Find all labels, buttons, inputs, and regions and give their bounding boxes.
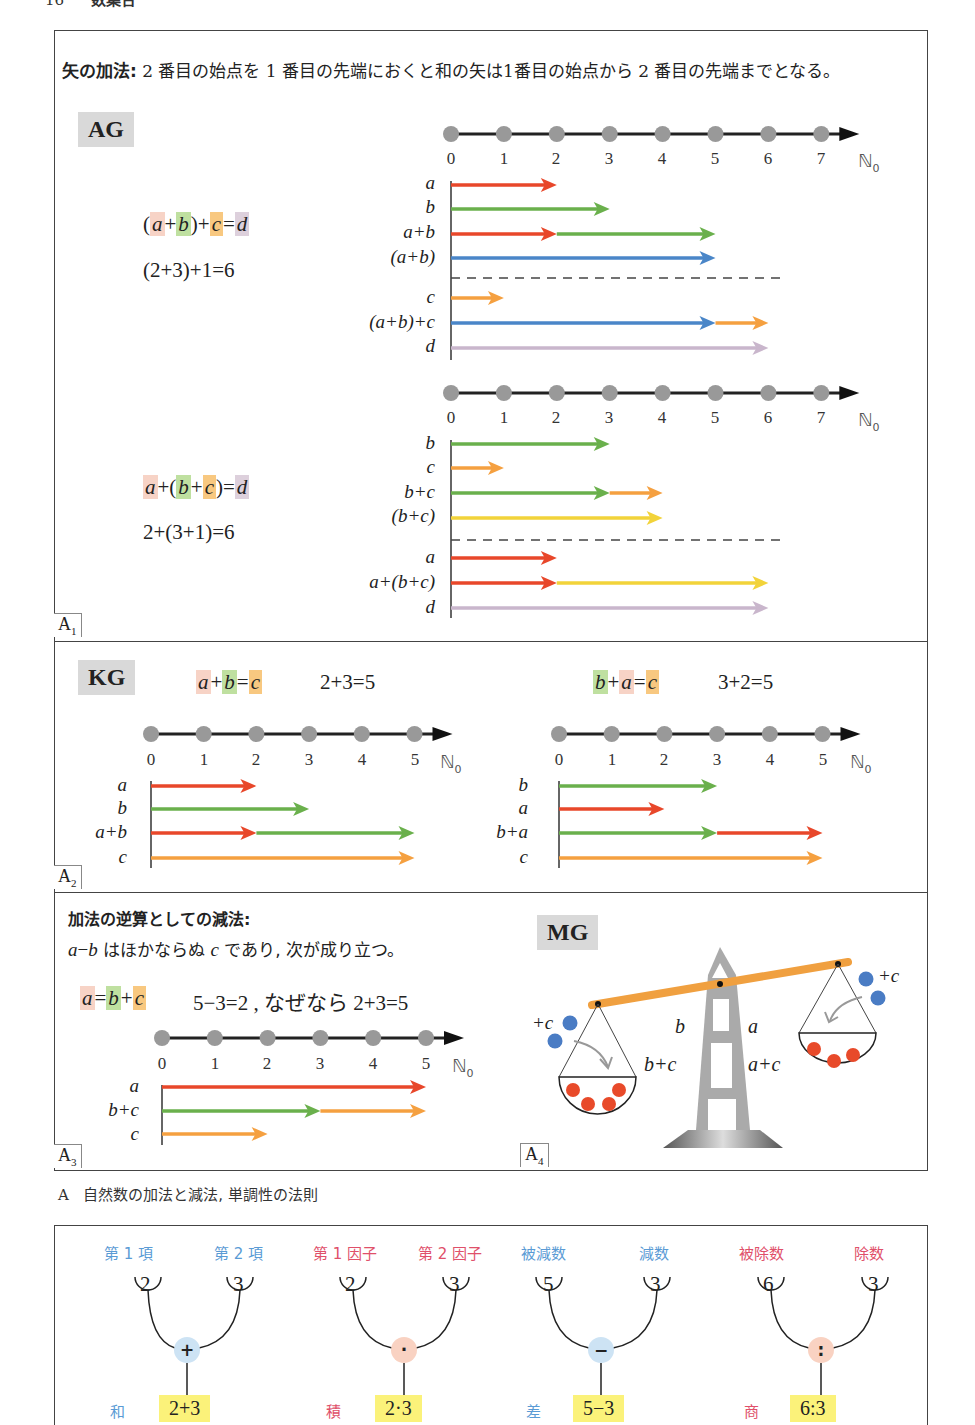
- caption-letter: A: [58, 1186, 69, 1204]
- caption-text: 自然数の加法と減法, 単調性の法則: [83, 1186, 318, 1204]
- result-box: 5−3: [573, 1395, 624, 1422]
- figure-caption: A 自然数の加法と減法, 単調性の法則: [58, 1183, 318, 1204]
- result-box: 2·3: [375, 1395, 422, 1422]
- result-box: 2+3: [159, 1395, 210, 1422]
- result-box: 6:3: [790, 1395, 836, 1422]
